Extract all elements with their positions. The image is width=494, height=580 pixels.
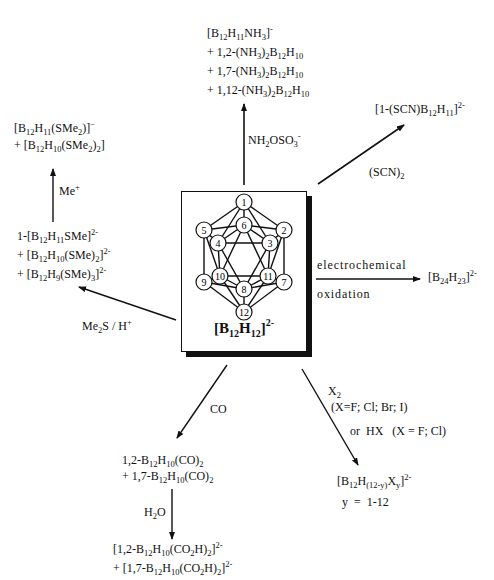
product-line: + 1,7-(NH3)2B12H10 — [207, 62, 309, 81]
product-line: + 1,7-B12H10(CO)2 — [122, 468, 213, 484]
product-line: + [B12H10(SMe)2]2- — [17, 246, 110, 265]
product-line: 1,2-B12H10(CO)2 — [122, 452, 213, 468]
scn-product: [1-(SCN)B12H11]2- — [375, 100, 465, 119]
reagent-co: CO — [210, 402, 227, 416]
halogenated-product: [B12H(12-y)Xy]2- — [337, 472, 411, 491]
reagent-electrochemical: electrochemical — [317, 258, 406, 272]
central-formula: [B12H12]2- — [182, 320, 306, 337]
thioether-products: 1-[B12H11SMe]2- + [B12H10(SMe)2]2- + [B1… — [17, 227, 110, 284]
product-line: + 1,2-(NH3)2B12H10 — [207, 43, 309, 62]
svg-text:2: 2 — [282, 225, 287, 236]
reagent-water: H2O — [144, 505, 166, 519]
product-line: + [B12H9(SMe)3]2- — [17, 265, 110, 284]
svg-text:1: 1 — [242, 197, 247, 208]
reagent-halogen-list: (X=F; Cl; Br; I) — [331, 400, 407, 414]
reagent-halogen: X2 — [328, 384, 341, 398]
reagent-methyl-cation: Me+ — [59, 184, 80, 198]
reagent-thiocyanogen: (SCN)2 — [369, 165, 405, 179]
top-products: [B12H11NH3]- + 1,2-(NH3)2B12H10 + 1,7-(N… — [207, 24, 309, 100]
product-line: [B12H11(SMe2)]− — [14, 120, 105, 137]
reagent-sulfamate: NH2OSO3- — [248, 133, 301, 147]
svg-text:9: 9 — [202, 277, 207, 288]
dimer-product: [B24H23]2- — [428, 268, 477, 287]
svg-text:10: 10 — [215, 271, 225, 282]
carboxylic-acid-products: [1,2-B12H10(CO2H)2]2- + [1,7-B12H10(CO2H… — [113, 540, 232, 578]
product-line: [B12H11NH3]- — [207, 24, 309, 43]
carbonyl-products: 1,2-B12H10(CO)2 + 1,7-B12H10(CO)2 — [122, 452, 213, 484]
product-line: + [B12H10(SMe2)2] — [14, 137, 105, 154]
icosahedron-cage-icon: 165243101197812 — [182, 192, 306, 324]
reagent-oxidation: oxidation — [317, 287, 370, 301]
y-range: y = 1-12 — [342, 495, 389, 509]
svg-text:3: 3 — [268, 238, 273, 249]
svg-text:4: 4 — [216, 238, 221, 249]
sulfonium-products: [B12H11(SMe2)]− + [B12H10(SMe2)2] — [14, 120, 105, 154]
reagent-hx: or HX (X = F; Cl) — [350, 424, 446, 438]
svg-text:7: 7 — [282, 277, 287, 288]
arrow-left — [79, 287, 176, 320]
product-line: 1-[B12H11SMe]2- — [17, 227, 110, 246]
svg-text:11: 11 — [263, 271, 273, 282]
product-line: [1,2-B12H10(CO2H)2]2- — [113, 540, 232, 559]
product-line: + [1,7-B12H10(CO2H)2]2- — [113, 559, 232, 578]
svg-text:8: 8 — [242, 284, 247, 295]
reagent-dimethylsulfide: Me2S / H+ — [82, 319, 132, 333]
product-line: + 1,12-(NH3)2B12H10 — [207, 81, 309, 100]
central-cluster-box: 165243101197812 [B12H12]2- — [181, 191, 307, 352]
svg-text:5: 5 — [202, 225, 207, 236]
svg-text:6: 6 — [242, 220, 247, 231]
svg-text:12: 12 — [239, 307, 249, 318]
